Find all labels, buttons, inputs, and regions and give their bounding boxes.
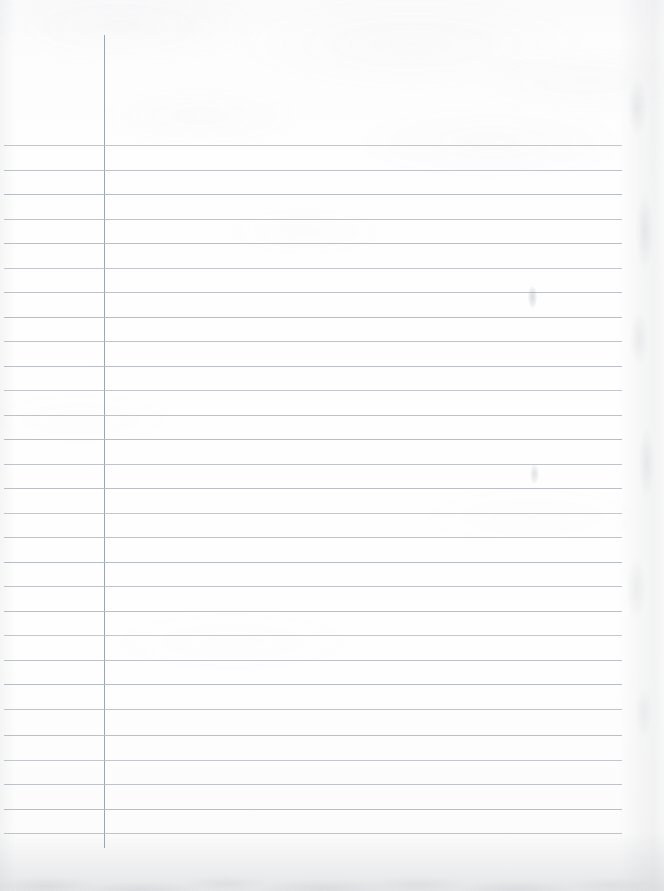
header-area (0, 0, 664, 145)
left-scan-edge-shadow (0, 0, 16, 891)
right-scan-edge-shadow (618, 0, 664, 891)
writing-area (105, 145, 622, 834)
bottom-scan-edge-shadow (0, 831, 664, 891)
scanned-page (0, 0, 664, 891)
